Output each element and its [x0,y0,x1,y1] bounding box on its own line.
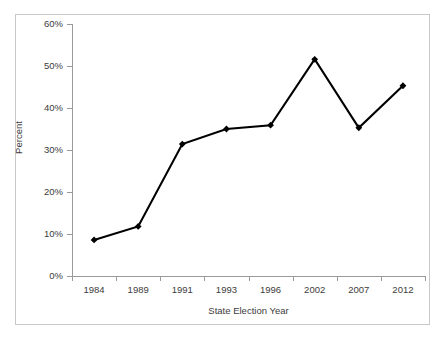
series-line [94,59,403,240]
x-axis-title: State Election Year [72,305,425,316]
line-series [0,0,445,340]
data-point-marker [223,126,230,133]
data-point-marker [91,236,98,243]
y-axis-title: Percent [13,98,24,178]
chart-figure: 0%10%20%30%40%50%60% 1984198919911993199… [0,0,445,340]
